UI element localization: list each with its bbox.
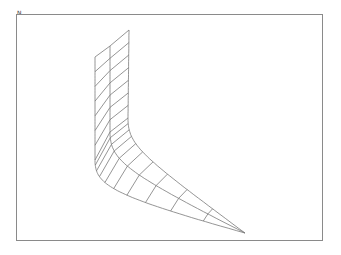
wireframe-mesh — [0, 0, 341, 255]
